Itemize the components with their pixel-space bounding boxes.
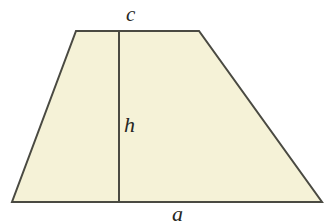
label-bottom-side-a: a: [172, 203, 183, 224]
trapezoid-outline: [12, 31, 322, 202]
label-top-side-c: c: [126, 4, 135, 25]
trapezoid-figure: c h a: [0, 0, 334, 224]
trapezoid-svg: [0, 0, 334, 224]
label-height-h: h: [124, 114, 135, 136]
